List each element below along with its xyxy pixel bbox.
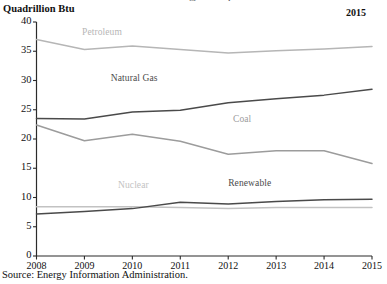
x-tick-label: 2014 [304,260,344,271]
y-tick-label: 0 [8,249,32,260]
series-line-nuclear [37,207,373,209]
y-tick-label: 10 [8,191,32,202]
y-tick-label: 25 [8,103,32,114]
y-tick-label: 30 [8,74,32,85]
y-tick-label: 20 [8,132,32,143]
series-label-coal: Coal [233,114,251,124]
source-note: Source: Energy Information Administratio… [2,269,188,280]
x-tick-label: 2013 [256,260,296,271]
series-label-petroleum: Petroleum [82,27,122,37]
series-label-renewable: Renewable [228,178,271,188]
y-tick-label: 5 [8,220,32,231]
y-tick-label: 15 [8,161,32,172]
y-tick-label: 35 [8,44,32,55]
series-line-natural-gas [37,89,373,119]
series-line-petroleum [37,40,373,53]
chart-series-lines [37,40,373,214]
series-label-natural-gas: Natural Gas [111,73,158,83]
series-line-coal [37,125,373,164]
series-label-nuclear: Nuclear [118,180,149,190]
x-tick-label: 2012 [208,260,248,271]
y-tick-label: 40 [8,15,32,26]
x-tick-label: 2015 [352,260,387,271]
